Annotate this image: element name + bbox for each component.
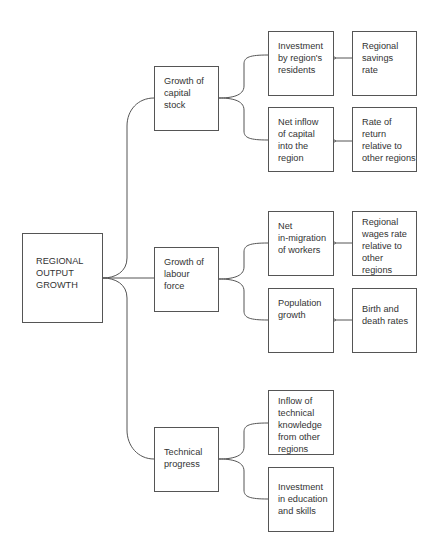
birth-death-label: Birth and death rates — [362, 303, 416, 327]
box-regional-savings-rate: Regional savings rate — [352, 31, 417, 96]
wages-rate-label: Regional wages rate relative to other re… — [362, 216, 416, 276]
box-inflow-technical-knowledge: Inflow of technical knowledge from other… — [268, 390, 334, 455]
box-investment-in-education: Investment in education and skills — [268, 467, 334, 532]
connector-root-to-capital — [103, 98, 154, 278]
capital-label: Growth of capital stock — [164, 75, 218, 111]
labour-label: Growth of labour force — [164, 256, 218, 292]
inflow-knowledge-label: Inflow of technical knowledge from other… — [278, 395, 333, 455]
connector-capital-upper — [219, 55, 268, 98]
savings-rate-label: Regional savings rate — [362, 40, 416, 76]
box-rate-of-return: Rate of return relative to other regions — [352, 107, 417, 172]
rate-of-return-label: Rate of return relative to other regions — [362, 116, 416, 164]
box-regional-output-growth: REGIONAL OUTPUT GROWTH — [22, 233, 103, 323]
net-inflow-label: Net inflow of capital into the region — [278, 116, 333, 164]
connector-labour-lower — [219, 279, 268, 320]
connector-technical-lower — [219, 459, 268, 499]
investment-education-label: Investment in education and skills — [278, 481, 333, 517]
box-growth-of-capital-stock: Growth of capital stock — [154, 66, 219, 131]
technical-label: Technical progress — [164, 446, 218, 470]
investment-residents-label: Investment by region's residents — [278, 40, 333, 76]
box-population-growth: Population growth — [268, 288, 334, 353]
box-technical-progress: Technical progress — [154, 427, 219, 492]
connector-labour-upper — [219, 243, 268, 279]
box-regional-wages-rate: Regional wages rate relative to other re… — [352, 211, 417, 276]
box-growth-of-labour-force: Growth of labour force — [154, 247, 219, 312]
box-birth-and-death-rates: Birth and death rates — [352, 288, 417, 353]
net-in-migration-label: Net in-migration of workers — [278, 220, 333, 256]
population-growth-label: Population growth — [278, 297, 333, 321]
box-net-in-migration: Net in-migration of workers — [268, 211, 334, 276]
box-investment-by-residents: Investment by region's residents — [268, 31, 334, 96]
connector-root-to-technical — [103, 278, 154, 459]
connector-technical-upper — [219, 423, 268, 459]
connector-capital-lower — [219, 98, 268, 140]
root-label: REGIONAL OUTPUT GROWTH — [36, 255, 102, 291]
box-net-inflow-of-capital: Net inflow of capital into the region — [268, 107, 334, 172]
